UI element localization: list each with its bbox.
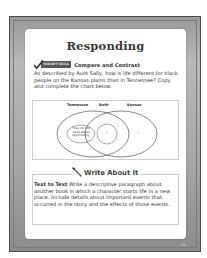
skill-name: Compare and Contrast [74, 62, 140, 68]
venn-center-text: ? [106, 131, 108, 135]
venn-right-text: ? [137, 131, 139, 135]
write-prompt: Text to Text Write a descriptive paragra… [34, 181, 180, 207]
venn-diagram-box: Tennessee Both Kansas They do not have e… [32, 100, 179, 160]
page-number: 11 [181, 243, 185, 247]
venn-left-text: They do not have equal opportunity. [71, 127, 91, 138]
checkmark-icon [34, 60, 43, 70]
target-skill-row: TARGET SKILL Compare and Contrast [34, 60, 140, 69]
write-lead: Text to Text [34, 181, 67, 187]
page-title: Responding [25, 39, 186, 53]
textbook-page: Responding TARGET SKILL Compare and Cont… [25, 29, 186, 239]
target-skill-badge: TARGET SKILL [41, 61, 71, 68]
skill-question: As described by Aunt Sally, how is life … [34, 70, 180, 90]
